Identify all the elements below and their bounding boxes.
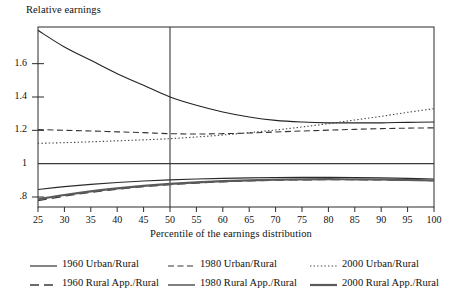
- y-axis-tick-label: 1: [0, 157, 27, 168]
- legend-item-2: 2000 Urban/Rural: [310, 254, 419, 273]
- legend-row: 1960 Urban/Rural1980 Urban/Rural2000 Urb…: [0, 254, 462, 273]
- legend-swatch-icon: [168, 258, 195, 270]
- legend-label: 2000 Rural App./Rural: [342, 277, 439, 288]
- y-axis-tick-label: 1.4: [0, 90, 27, 101]
- legend-swatch-icon: [30, 258, 57, 270]
- legend-label: 2000 Urban/Rural: [342, 258, 419, 269]
- legend-label: 1960 Rural App./Rural: [62, 277, 159, 288]
- legend-swatch-icon: [168, 277, 195, 289]
- x-axis-tick-label: 100: [414, 214, 454, 225]
- legend-item-5: 2000 Rural App./Rural: [310, 273, 439, 292]
- legend-row: 1960 Rural App./Rural1980 Rural App./Rur…: [0, 273, 462, 292]
- y-axis-tick-label: 1.2: [0, 123, 27, 134]
- plot-area: [0, 0, 462, 294]
- legend-label: 1960 Urban/Rural: [62, 258, 139, 269]
- legend-label: 1980 Urban/Rural: [200, 258, 277, 269]
- legend-item-4: 1980 Rural App./Rural: [168, 273, 297, 292]
- legend-swatch-icon: [310, 258, 337, 270]
- legend-item-1: 1980 Urban/Rural: [168, 254, 277, 273]
- legend-swatch-icon: [30, 277, 57, 289]
- chart-figure: Relative earnings Percentile of the earn…: [0, 0, 462, 294]
- y-axis-tick-label: 1.6: [0, 57, 27, 68]
- legend-item-0: 1960 Urban/Rural: [30, 254, 139, 273]
- series-line-2: [38, 109, 434, 144]
- series-line-1: [38, 128, 434, 134]
- legend-item-3: 1960 Rural App./Rural: [30, 273, 159, 292]
- legend-swatch-icon: [310, 277, 337, 289]
- series-line-0: [38, 30, 434, 123]
- series-line-5: [38, 179, 434, 199]
- chart-legend: 1960 Urban/Rural1980 Urban/Rural2000 Urb…: [0, 252, 462, 294]
- legend-label: 1980 Rural App./Rural: [200, 277, 297, 288]
- y-axis-tick-label: .8: [0, 190, 27, 201]
- x-axis-title: Percentile of the earnings distribution: [0, 228, 462, 239]
